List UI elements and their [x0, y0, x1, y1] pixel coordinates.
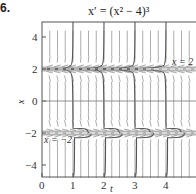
- slope-segment: [171, 135, 177, 137]
- slope-segment: [101, 135, 107, 137]
- slope-segment: [78, 65, 84, 67]
- solution-curves: [42, 22, 185, 177]
- equilibrium-label-xm2: x = −2: [43, 134, 72, 145]
- slope-segment: [80, 75, 81, 81]
- y-tick-label: −2: [25, 127, 37, 139]
- x-axis-label: t: [110, 183, 113, 194]
- slope-segment: [101, 129, 107, 130]
- slope-segment: [173, 139, 174, 145]
- slope-segment: [65, 120, 66, 126]
- y-tick-label: 2: [32, 63, 38, 75]
- slope-segment: [140, 135, 146, 137]
- direction-field-slopes: [47, 31, 193, 178]
- slope-segment: [150, 56, 151, 62]
- slope-segment: [96, 56, 97, 62]
- slope-segment: [140, 71, 146, 72]
- slope-segment: [54, 65, 60, 67]
- slope-segment: [109, 65, 115, 67]
- slope-segment: [93, 129, 99, 130]
- slope-segment: [104, 139, 105, 145]
- slope-segment: [96, 139, 97, 145]
- slope-segment: [171, 129, 177, 130]
- slope-segment: [80, 139, 81, 145]
- y-tick-label: −4: [25, 159, 37, 171]
- direction-field-plot: 420−2−401234 t x x = 2 x = −2: [0, 0, 196, 194]
- slope-segment: [78, 135, 84, 137]
- slope-segment: [116, 65, 122, 67]
- slope-segment: [119, 75, 120, 81]
- slope-segment: [140, 129, 146, 130]
- slope-segment: [127, 139, 128, 145]
- slope-segment: [124, 135, 130, 137]
- slope-segment: [93, 65, 99, 67]
- slope-segment: [181, 139, 182, 145]
- slope-segment: [158, 120, 159, 126]
- x-tick-label: 4: [163, 179, 169, 191]
- slope-segment: [189, 75, 190, 81]
- slope-segment: [158, 75, 159, 81]
- slope-segment: [119, 56, 120, 62]
- slope-segment: [65, 56, 66, 62]
- slope-segment: [135, 139, 136, 145]
- slope-segment: [47, 65, 53, 67]
- y-axis-label: x: [15, 99, 26, 105]
- slope-segment: [186, 129, 192, 130]
- x-tick-label: 2: [101, 179, 107, 191]
- slope-segment: [111, 120, 112, 126]
- slope-segment: [54, 129, 60, 130]
- slope-segment: [147, 71, 153, 72]
- slope-segment: [178, 71, 184, 72]
- slope-segment: [127, 56, 128, 62]
- slope-segment: [93, 71, 99, 72]
- slope-segment: [88, 75, 89, 81]
- slope-segment: [142, 120, 143, 126]
- slope-segment: [124, 129, 130, 130]
- slope-segment: [132, 135, 138, 137]
- slope-segment: [181, 75, 182, 81]
- slope-segment: [93, 135, 99, 137]
- y-tick-label: 4: [32, 31, 38, 43]
- slope-segment: [62, 65, 68, 67]
- slope-segment: [111, 56, 112, 62]
- slope-segment: [173, 75, 174, 81]
- slope-segment: [127, 120, 128, 126]
- slope-segment: [166, 139, 167, 145]
- equilibrium-label-x2: x = 2: [171, 56, 193, 67]
- slope-segment: [181, 120, 182, 126]
- slope-segment: [189, 120, 190, 126]
- slope-segment: [62, 71, 68, 72]
- slope-segment: [49, 75, 50, 81]
- slope-segment: [96, 120, 97, 126]
- slope-segment: [171, 71, 177, 72]
- slope-segment: [65, 75, 66, 81]
- slope-segment: [88, 56, 89, 62]
- slope-segment: [142, 139, 143, 145]
- slope-segment: [109, 71, 115, 72]
- slope-segment: [119, 120, 120, 126]
- slope-segment: [111, 75, 112, 81]
- slope-segment: [88, 139, 89, 145]
- slope-segment: [73, 139, 74, 145]
- slope-segment: [47, 71, 53, 72]
- slope-segment: [132, 129, 138, 130]
- slope-segment: [142, 56, 143, 62]
- slope-segment: [119, 139, 120, 145]
- x-tick-label: 1: [70, 179, 76, 191]
- x-tick-label: 3: [132, 179, 138, 191]
- slope-segment: [88, 120, 89, 126]
- slope-segment: [173, 120, 174, 126]
- slope-segment: [78, 129, 84, 130]
- slope-segment: [186, 71, 192, 72]
- slope-segment: [80, 120, 81, 126]
- slope-segment: [158, 56, 159, 62]
- slope-segment: [150, 139, 151, 145]
- slope-segment: [109, 129, 115, 130]
- slope-segment: [163, 129, 169, 130]
- slope-segment: [78, 71, 84, 72]
- slope-segment: [155, 135, 161, 137]
- slope-segment: [49, 56, 50, 62]
- axis-ticks: 420−2−401234: [25, 31, 169, 191]
- slope-segment: [57, 75, 58, 81]
- slope-segment: [57, 56, 58, 62]
- slope-segment: [80, 56, 81, 62]
